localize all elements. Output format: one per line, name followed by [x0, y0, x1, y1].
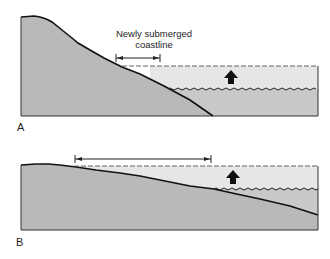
newly-submerged-coastline-label: Newly submerged coastline [104, 28, 204, 50]
panel-b-dimension-arrow [75, 155, 211, 163]
annotation-line-1: Newly submerged [104, 28, 204, 39]
panel-a-dimension-arrow [116, 54, 160, 62]
annotation-line-2: coastline [104, 39, 204, 50]
panel-b-label: B [16, 236, 23, 248]
panel-a-label: A [17, 121, 24, 133]
panel-b [21, 155, 318, 230]
